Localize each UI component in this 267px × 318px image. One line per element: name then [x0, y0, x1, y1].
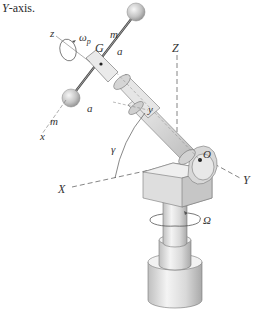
z-label: z: [49, 27, 55, 39]
G-label: G: [95, 41, 104, 55]
point-G: [99, 62, 102, 65]
y-label: y: [147, 103, 153, 115]
Omega-label: Ω: [203, 214, 211, 226]
omega-p-label: ωp: [79, 31, 91, 46]
x-label: x: [39, 130, 45, 142]
a-lower-label: a: [87, 102, 93, 114]
mass-top: [127, 3, 145, 21]
Y-label: Y: [243, 173, 251, 187]
gamma-angle-arc: γ: [111, 113, 145, 178]
O-label: O: [203, 148, 211, 160]
m-top-label: m: [110, 28, 118, 40]
a-upper-label: a: [117, 45, 123, 57]
X-label: X: [57, 182, 66, 196]
base-pedestal: [148, 195, 202, 308]
robot-arm: [106, 62, 200, 167]
Z-label: Z: [172, 41, 179, 55]
spin-axis-z: z ωp x: [39, 27, 91, 142]
Z-axis: Z: [172, 41, 179, 140]
robot-arm-diagram: Z X Y Ω O: [0, 0, 267, 318]
m-bottom-label: m: [50, 115, 58, 127]
mass-bottom: [62, 89, 80, 107]
gamma-label: γ: [111, 143, 116, 155]
